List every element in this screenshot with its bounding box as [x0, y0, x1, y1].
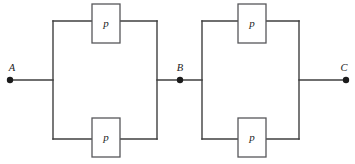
component-label: p	[248, 17, 255, 29]
component-p-bottom-left[interactable]: p	[92, 118, 120, 157]
component-p-bottom-right[interactable]: p	[238, 118, 266, 157]
component-label: p	[102, 131, 109, 143]
terminal-label-c: C	[340, 62, 348, 73]
terminal-label-b: B	[177, 62, 184, 73]
component-p-top-left[interactable]: p	[92, 4, 120, 43]
terminal-b[interactable]: B	[177, 62, 184, 83]
node-dot-icon	[7, 77, 13, 83]
terminal-label-a: A	[8, 62, 16, 73]
parallel-block-2: p p	[202, 4, 299, 157]
component-p-top-right[interactable]: p	[238, 4, 266, 43]
node-dot-icon	[343, 77, 349, 83]
diagram-canvas: p p p p	[0, 0, 355, 164]
component-label: p	[102, 17, 109, 29]
parallel-block-1: p p	[53, 4, 157, 157]
node-dot-icon	[177, 77, 183, 83]
circuit-diagram: p p p p	[0, 0, 355, 164]
component-label: p	[248, 131, 255, 143]
